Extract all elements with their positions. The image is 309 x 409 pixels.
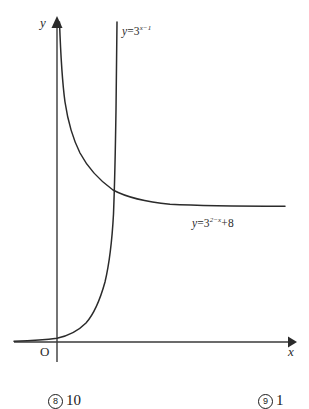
origin-label: O	[40, 345, 49, 358]
answer-choice-8[interactable]: 810	[48, 392, 81, 409]
curve-label-decay-base: =3	[197, 217, 209, 229]
choice-marker-8: 8	[48, 394, 63, 409]
curve-exponential-decay	[60, 22, 286, 206]
choice-text-9: 1	[276, 392, 284, 408]
answer-choice-9[interactable]: 91	[258, 392, 284, 409]
answer-choices: 810 91	[0, 392, 309, 408]
curve-label-growth-base: =3	[127, 25, 139, 37]
curve-label-decay-exponent: 2−x	[210, 216, 222, 224]
curve-label-growth: y=3x−1	[122, 25, 151, 37]
y-axis-label: y	[40, 16, 46, 29]
choice-text-8: 10	[66, 392, 81, 408]
curve-label-decay: y=32−x+8	[192, 217, 234, 229]
curve-label-growth-exponent: x−1	[140, 24, 152, 32]
x-axis-label: x	[288, 345, 294, 358]
curve-label-decay-constant: +8	[221, 217, 233, 229]
y-axis-arrowhead	[52, 16, 63, 28]
choice-marker-9: 9	[258, 394, 273, 409]
